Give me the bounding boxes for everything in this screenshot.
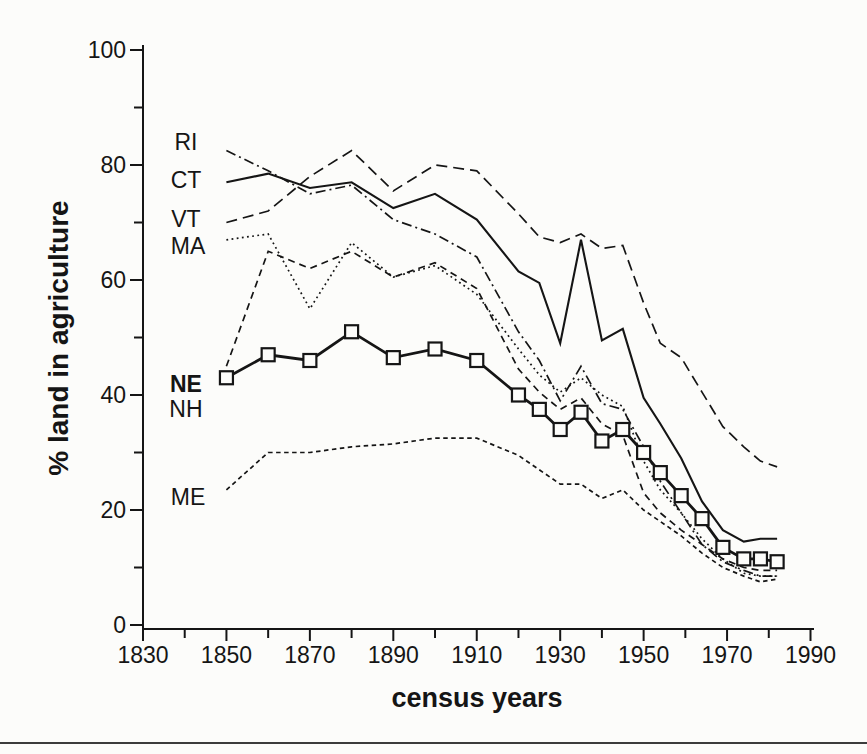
series-label-CT: CT [171,167,202,193]
series-marker-NE [675,489,688,502]
series-marker-NE [533,403,546,416]
x-tick-label: 1950 [618,642,669,668]
y-tick-label: 0 [113,612,126,638]
y-tick-label: 20 [100,497,126,523]
series-marker-NE [654,466,667,479]
y-tick-label: 80 [100,152,126,178]
x-tick-label: 1990 [785,642,836,668]
series-marker-NE [637,446,650,459]
series-marker-NE [754,552,767,565]
x-axis-title: census years [391,683,562,713]
x-tick-label: 1930 [535,642,586,668]
series-marker-NE [771,555,784,568]
series-line-VT [226,151,777,467]
series-marker-NE [220,371,233,384]
page-bottom-rule [0,742,867,744]
x-tick-label: 1890 [368,642,419,668]
y-axis-title: % land in agriculture [43,200,74,475]
series-label-NH: NH [169,396,202,422]
series-marker-NE [595,435,608,448]
series-marker-NE [262,348,275,361]
series-marker-NE [470,354,483,367]
x-tick-label: 1850 [201,642,252,668]
series-marker-NE [387,351,400,364]
y-tick-label: 40 [100,382,126,408]
series-marker-NE [554,423,567,436]
series-marker-NE [716,541,729,554]
scanned-figure-page: % land in agriculture census years 02040… [0,0,867,754]
series-marker-NE [575,406,588,419]
series-label-MA: MA [171,233,206,259]
series-marker-NE [303,354,316,367]
y-tick-label: 60 [100,267,126,293]
series-marker-NE [512,389,525,402]
x-tick-label: 1910 [451,642,502,668]
series-marker-NE [737,552,750,565]
series-marker-NE [345,325,358,338]
series-label-VT: VT [171,206,200,232]
x-tick-label: 1970 [701,642,752,668]
x-tick-label: 1830 [117,642,168,668]
series-label-ME: ME [171,484,206,510]
agriculture-line-chart: % land in agriculture census years 02040… [0,0,867,754]
series-label-NE: NE [170,371,202,397]
series-marker-NE [429,343,442,356]
series-marker-NE [616,423,629,436]
x-tick-label: 1870 [284,642,335,668]
series-marker-NE [696,512,709,525]
series-label-RI: RI [174,129,197,155]
y-tick-label: 100 [88,37,126,63]
